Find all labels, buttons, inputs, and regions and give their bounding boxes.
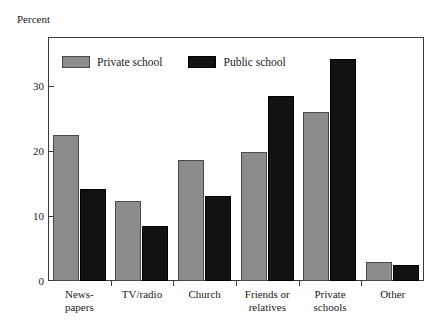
bar-group [173, 37, 236, 281]
x-axis-label-line: papers [41, 301, 118, 314]
legend-label-private: Private school [97, 56, 162, 68]
x-axis-label-line: Other [354, 288, 431, 301]
y-tick-label: 10 [20, 211, 44, 222]
legend-item-public: Public school [188, 56, 285, 68]
x-axis-label: Other [354, 288, 431, 301]
bar-private [178, 160, 204, 281]
y-tick-label: 0 [20, 276, 44, 287]
x-tick-mark [361, 281, 362, 286]
x-tick-mark [173, 281, 174, 286]
bar-public [393, 265, 419, 281]
bar-public [142, 226, 168, 281]
bar-group [361, 37, 424, 281]
legend-swatch-private-icon [62, 56, 90, 68]
legend: Private school Public school [62, 56, 286, 68]
bar-private [366, 262, 392, 281]
bar-group [236, 37, 299, 281]
x-tick-mark [111, 281, 112, 286]
y-axis-title: Percent [17, 13, 50, 26]
y-tick-label: 20 [20, 146, 44, 157]
bar-group [299, 37, 362, 281]
bar-public [268, 96, 294, 281]
bar-chart: Percent 0102030 News-papersTV/radioChurc… [0, 0, 445, 330]
bar-group [48, 37, 111, 281]
x-tick-mark [236, 281, 237, 286]
x-axis-label-line: schools [292, 301, 369, 314]
y-tick-label: 30 [20, 81, 44, 92]
bars-layer [48, 37, 424, 281]
bar-public [205, 196, 231, 281]
legend-swatch-public-icon [188, 56, 216, 68]
bar-public [330, 59, 356, 281]
bar-private [241, 152, 267, 281]
legend-item-private: Private school [62, 56, 162, 68]
x-tick-mark [299, 281, 300, 286]
legend-label-public: Public school [223, 56, 285, 68]
bar-group [111, 37, 174, 281]
bar-public [80, 189, 106, 281]
bar-private [115, 201, 141, 281]
bar-private [303, 112, 329, 281]
bar-private [53, 135, 79, 281]
